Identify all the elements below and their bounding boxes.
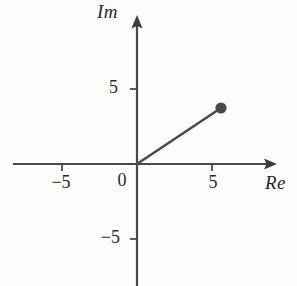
real-axis-label: Re [265, 172, 286, 194]
x-tick-label-pos5: 5 [204, 172, 222, 193]
imaginary-axis-label: Im [97, 1, 118, 23]
origin-label: 0 [113, 170, 131, 191]
x-tick-label-neg5: −5 [45, 172, 77, 193]
y-tick-label-pos5: 5 [100, 77, 118, 98]
complex-plane-figure: Im Re −5 5 0 5 −5 [0, 0, 297, 286]
complex-plane-plot [0, 0, 297, 286]
complex-number-point-marker [215, 102, 226, 113]
complex-number-vector [137, 108, 221, 164]
y-tick-label-neg5: −5 [88, 227, 120, 248]
